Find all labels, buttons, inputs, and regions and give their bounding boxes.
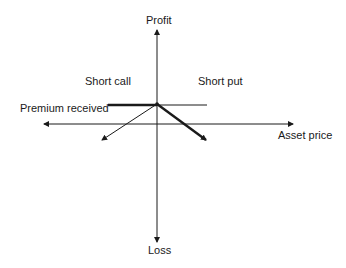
profit-label: Profit: [146, 14, 172, 26]
premium-received-label: Premium received: [20, 102, 109, 114]
short-call-label: Short call: [85, 75, 131, 87]
short-call-slope: [102, 104, 157, 140]
vertex-point: [155, 102, 159, 106]
short-put-slope: [157, 104, 206, 140]
short-put-label: Short put: [198, 75, 243, 87]
loss-label: Loss: [148, 244, 171, 256]
asset-price-label: Asset price: [278, 129, 332, 141]
